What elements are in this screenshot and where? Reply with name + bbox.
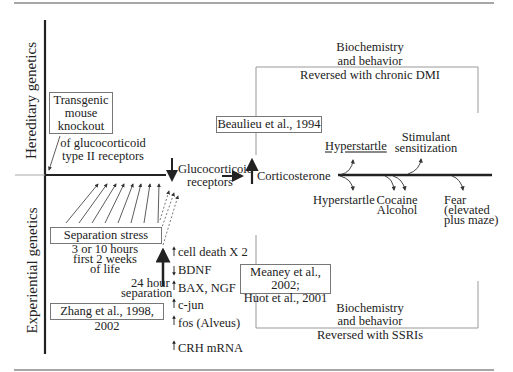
separation-label: separation xyxy=(121,288,172,299)
upper-biochemistry: Biochemistry xyxy=(300,40,440,54)
reversed-ssris: Reversed with SSRIs xyxy=(300,328,440,342)
knockout-caption-1: of glucocorticoid xyxy=(60,136,146,150)
knockout-line-3: knockout xyxy=(50,120,112,133)
zhang-text: Zhang et al., 1998, 2002 xyxy=(51,304,163,334)
marker-bax-ngf: BAX, NGF xyxy=(178,281,236,295)
hereditary-genetics-label: Hereditary genetics xyxy=(23,36,40,166)
meaney-text: Meaney et al., 2002; xyxy=(241,266,330,292)
marker-c-jun: c-jun xyxy=(178,298,204,312)
separation-caption-3: of life xyxy=(60,264,150,275)
zhang-box: Zhang et al., 1998, 2002 xyxy=(50,303,164,320)
corticosterone-label: Corticosterone xyxy=(257,169,331,183)
reversed-dmi: Reversed with chronic DMI xyxy=(295,68,445,82)
marker-cell-death: cell death X 2 xyxy=(178,245,248,259)
upper-and-behavior: and behavior xyxy=(300,54,440,68)
beaulieu-box: Beaulieu et al., 1994 xyxy=(216,116,322,133)
stimulant-line-2: sensitization xyxy=(388,141,464,155)
marker-bdnf: BDNF xyxy=(178,263,211,277)
knockout-caption-2: type II receptors xyxy=(60,149,146,163)
fear-line-3: plus maze) xyxy=(444,213,499,227)
receptors-label: receptors xyxy=(187,175,233,189)
lower-and-behavior: and behavior xyxy=(300,314,440,328)
hyperstartle-above: Hyperstartle xyxy=(325,139,387,153)
alcohol-label: Alcohol xyxy=(376,203,418,217)
marker-crh: CRH mRNA xyxy=(178,341,243,355)
experiential-genetics-label: Experiential genetics xyxy=(24,197,41,345)
transgenic-knockout-box: Transgenic mouse knockout xyxy=(49,92,113,134)
glucocorticoid-label: Glucocorticoid xyxy=(178,162,253,176)
beaulieu-text: Beaulieu et al., 1994 xyxy=(217,117,321,132)
meaney-huot-box: Meaney et al., 2002; Huot et al., 2001 xyxy=(240,264,331,294)
marker-fos: fos (Alveus) xyxy=(178,316,240,330)
separation-stress-text: Separation stress xyxy=(51,228,161,243)
lower-biochemistry: Biochemistry xyxy=(300,301,440,315)
hyperstartle-below: Hyperstartle xyxy=(313,193,375,207)
